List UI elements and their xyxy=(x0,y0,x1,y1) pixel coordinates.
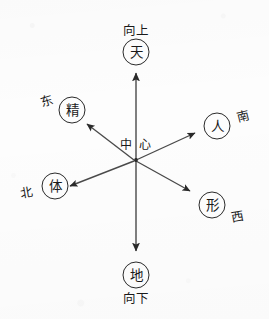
node-ti[interactable]: 体 xyxy=(42,173,69,200)
center-label: 中 心 xyxy=(120,139,151,152)
node-jing[interactable]: 精 xyxy=(59,97,86,124)
diagram-canvas: 中 心 向上 天 地 向下 东 精 人 南 北 体 形 西 xyxy=(0,0,269,319)
direction-label-xiangxia: 向下 xyxy=(123,292,149,306)
direction-label-xiangshang: 向上 xyxy=(123,24,149,38)
arrow-to-ti xyxy=(70,161,134,186)
direction-label-xi: 西 xyxy=(230,209,245,225)
node-tian[interactable]: 天 xyxy=(123,39,150,66)
arrow-to-xing xyxy=(136,161,190,191)
nw-se-axis xyxy=(87,124,190,191)
node-ren[interactable]: 人 xyxy=(204,113,231,140)
direction-label-bei: 北 xyxy=(19,185,34,201)
node-di[interactable]: 地 xyxy=(123,262,150,289)
node-xing[interactable]: 形 xyxy=(199,192,226,219)
center-point xyxy=(134,158,138,162)
